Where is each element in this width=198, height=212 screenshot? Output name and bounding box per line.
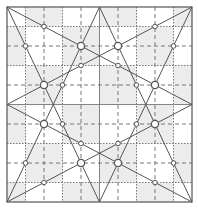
small-intersection-point	[116, 141, 121, 146]
shaded-cell	[63, 124, 82, 144]
shaded-cell	[63, 183, 82, 203]
shaded-cell	[174, 7, 193, 27]
shaded-cell	[7, 46, 26, 66]
shaded-cell	[155, 46, 174, 66]
small-intersection-point	[153, 180, 158, 185]
small-intersection-point	[23, 161, 28, 166]
large-intersection-point	[77, 42, 84, 49]
shaded-cell	[118, 66, 137, 86]
shaded-cell	[155, 183, 174, 203]
small-intersection-point	[171, 44, 176, 49]
shaded-cell	[7, 124, 26, 144]
shaded-cell	[137, 46, 156, 66]
shaded-cell	[7, 183, 26, 203]
shaded-cell	[174, 66, 193, 86]
shaded-cell	[26, 144, 45, 164]
shaded-cell	[137, 183, 156, 203]
shaded-cell	[63, 105, 82, 125]
shaded-cell	[118, 85, 137, 105]
large-intersection-point	[151, 81, 158, 88]
shaded-cell	[7, 105, 26, 125]
shaded-cell	[44, 163, 63, 183]
shaded-cell	[26, 163, 45, 183]
shaded-cell	[81, 183, 100, 203]
large-intersection-point	[114, 42, 121, 49]
small-intersection-point	[42, 24, 47, 29]
small-intersection-point	[60, 122, 65, 127]
small-intersection-point	[116, 63, 121, 68]
shaded-cell	[174, 163, 193, 183]
small-intersection-point	[42, 180, 47, 185]
diagram-canvas	[0, 0, 198, 212]
shaded-cell	[174, 144, 193, 164]
shaded-cell	[7, 27, 26, 47]
shaded-cell	[118, 7, 137, 27]
small-intersection-point	[171, 161, 176, 166]
large-intersection-point	[40, 120, 47, 127]
shaded-cell	[100, 66, 119, 86]
large-intersection-point	[40, 81, 47, 88]
shaded-cell	[137, 27, 156, 47]
shaded-cell	[44, 144, 63, 164]
small-intersection-point	[79, 63, 84, 68]
star-pattern-diagram	[0, 0, 198, 212]
large-intersection-point	[151, 120, 158, 127]
large-intersection-point	[114, 159, 121, 166]
small-intersection-point	[79, 141, 84, 146]
small-intersection-point	[134, 83, 139, 88]
shaded-cell	[81, 124, 100, 144]
large-intersection-point	[77, 159, 84, 166]
shaded-cell	[100, 7, 119, 27]
small-intersection-point	[60, 83, 65, 88]
shaded-cell	[44, 7, 63, 27]
shaded-cell	[155, 27, 174, 47]
small-intersection-point	[23, 44, 28, 49]
shaded-cell	[81, 105, 100, 125]
small-intersection-point	[134, 122, 139, 127]
small-intersection-point	[153, 24, 158, 29]
shaded-cell	[26, 7, 45, 27]
shaded-cell	[174, 85, 193, 105]
shaded-cell	[100, 85, 119, 105]
